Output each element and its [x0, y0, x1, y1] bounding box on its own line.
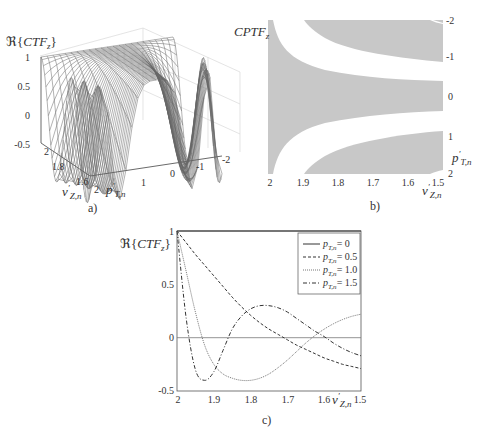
svg-text:0.5: 0.5 [162, 279, 175, 290]
svg-text:-0.5: -0.5 [158, 385, 174, 396]
svg-text:1.9: 1.9 [208, 394, 221, 405]
svg-text:1.7: 1.7 [282, 394, 295, 405]
svg-text:1.8: 1.8 [245, 394, 258, 405]
svg-text:0: 0 [169, 332, 174, 343]
svg-text:1.6: 1.6 [318, 394, 331, 405]
svg-text:1.5: 1.5 [354, 394, 367, 405]
panel-c-x-label: v′Z,n [332, 391, 352, 409]
panel-c-caption: c) [262, 413, 271, 427]
panel-c-y-label: ℜ{CTFz} [120, 236, 171, 253]
svg-text:2: 2 [176, 394, 181, 405]
panel-c-line-chart: pT,n= 0 pT,n= 0.5 pT,n= 1.0 pT,n= 1.5 1 … [0, 0, 486, 440]
panel-c-legend: pT,n= 0 pT,n= 0.5 pT,n= 1.0 pT,n= 1.5 [298, 233, 360, 294]
